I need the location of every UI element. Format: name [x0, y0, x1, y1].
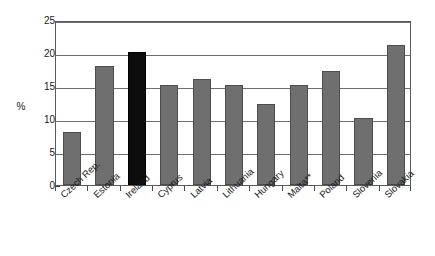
- plot-area: [55, 21, 411, 186]
- x-axis-tick-mark: [249, 186, 250, 191]
- y-axis-tick-label: 20: [19, 48, 55, 59]
- bar: [160, 85, 178, 185]
- y-axis-tick-label: 25: [19, 15, 55, 26]
- x-axis-tick-mark: [120, 186, 121, 191]
- x-axis-tick-mark: [410, 186, 411, 191]
- bar: [387, 45, 405, 185]
- bar-group: [56, 22, 410, 185]
- bar: [290, 85, 308, 185]
- chart-page: % 0510152025 Czech Rep.EstoniaIrelandCyp…: [0, 0, 435, 256]
- y-axis-tick-group: 0510152025: [0, 21, 55, 186]
- x-axis-tick-mark: [282, 186, 283, 191]
- y-axis-tick-label: 0: [19, 180, 55, 191]
- x-axis-tick-mark: [314, 186, 315, 191]
- bar: [128, 52, 146, 185]
- bar: [193, 79, 211, 185]
- x-axis-tick-mark: [184, 186, 185, 191]
- bar: [225, 85, 243, 185]
- x-axis-tick-mark: [87, 186, 88, 191]
- y-axis-tick-label: 15: [19, 81, 55, 92]
- x-axis-tick-mark: [217, 186, 218, 191]
- x-axis-label-group: Czech Rep.EstoniaIrelandCyprusLatviaLith…: [55, 192, 411, 256]
- bar: [322, 71, 340, 185]
- x-axis-tick-mark: [379, 186, 380, 191]
- y-axis-tick-label: 5: [19, 147, 55, 158]
- x-axis-tick-mark: [152, 186, 153, 191]
- x-axis-tick-mark: [346, 186, 347, 191]
- y-axis-tick-label: 10: [19, 114, 55, 125]
- x-axis-tick-mark: [55, 186, 56, 191]
